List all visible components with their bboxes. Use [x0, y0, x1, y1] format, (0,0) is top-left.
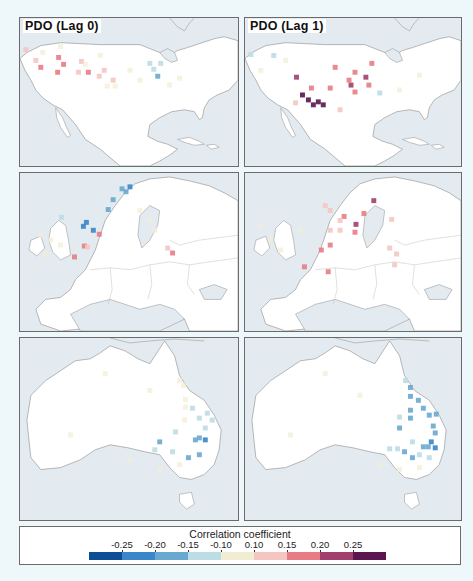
grid-cell	[177, 76, 182, 81]
grid-cell	[294, 75, 299, 80]
grid-cell	[98, 53, 103, 58]
grid-cell	[397, 88, 402, 93]
grid-cell	[177, 462, 182, 467]
colorbar-segment	[89, 552, 122, 560]
grid-cell	[152, 228, 157, 233]
cuba	[178, 137, 205, 145]
grid-cell	[61, 62, 66, 67]
panel-title: PDO (Lag 1)	[248, 19, 326, 33]
grid-cell	[394, 252, 399, 257]
grid-cell	[363, 75, 368, 80]
colorbar-segment	[287, 552, 320, 560]
hudson-bay-coast	[170, 18, 195, 31]
grid-cell	[328, 243, 333, 248]
grid-cell	[416, 398, 421, 403]
grid-cell	[300, 92, 305, 97]
grid-cell	[157, 467, 162, 472]
grid-cell	[23, 47, 28, 52]
grid-cell	[395, 446, 400, 451]
grid-cell	[137, 78, 142, 83]
grid-cell	[151, 67, 156, 72]
colorbar-segment	[353, 552, 386, 560]
grid-cell	[431, 424, 436, 429]
grid-cell	[349, 83, 354, 88]
grid-cell	[33, 58, 38, 63]
grid-cell	[43, 252, 48, 257]
grid-cell	[408, 394, 413, 399]
grid-cell	[397, 426, 402, 431]
grid-cell	[181, 383, 186, 388]
panel-australia-lag1	[244, 337, 462, 521]
grid-cell	[288, 432, 293, 437]
grid-cell	[85, 245, 90, 250]
grid-cell	[258, 68, 263, 73]
grid-cell	[83, 62, 88, 67]
grid-cell	[392, 262, 397, 267]
usa-landmass	[245, 37, 461, 166]
grid-cell	[323, 371, 328, 376]
grid-cell	[377, 91, 382, 96]
grid-cell	[353, 90, 358, 95]
grid-cell	[302, 264, 307, 269]
grid-cell	[258, 223, 263, 228]
grid-cell	[387, 446, 392, 451]
grid-cell	[328, 228, 333, 233]
colorbar-segment	[320, 552, 353, 560]
grid-cell	[59, 215, 64, 220]
grid-cell	[173, 429, 178, 434]
panel-europe-lag0	[19, 172, 239, 332]
grid-cell	[91, 228, 96, 233]
grid-cell	[408, 385, 413, 390]
usa-map-lag1	[245, 18, 461, 166]
panel-usa-lag0: PDO (Lag 0)	[19, 17, 239, 167]
grid-cell	[152, 447, 157, 452]
grid-cell	[408, 408, 413, 413]
new-guinea-coast	[110, 338, 204, 343]
grid-cell	[371, 198, 376, 203]
grid-cell	[197, 416, 202, 421]
grid-cell	[361, 211, 366, 216]
grid-cell	[293, 100, 298, 105]
tasmania	[405, 492, 420, 509]
grid-cell	[197, 452, 202, 457]
grid-cell	[205, 411, 210, 416]
ireland	[254, 236, 270, 256]
grid-cell	[338, 218, 343, 223]
grid-cell	[128, 184, 133, 189]
grid-cell	[203, 437, 208, 442]
grid-cell	[427, 413, 432, 418]
grid-cell	[427, 455, 432, 460]
grid-cell	[321, 102, 326, 107]
usa-landmass	[20, 37, 238, 166]
grid-cell	[353, 222, 358, 227]
grid-cell	[306, 97, 311, 102]
tasmania	[180, 492, 195, 509]
grid-cell	[417, 465, 422, 470]
australia-landmass	[252, 341, 446, 479]
grid-cell	[323, 203, 328, 208]
grid-cell	[97, 74, 102, 79]
europe-map-lag1	[245, 173, 461, 331]
grid-cell	[128, 68, 133, 73]
grid-cell	[157, 439, 162, 444]
grid-cell	[328, 208, 333, 213]
tick-label: -0.10	[210, 539, 232, 550]
tick-label: 0.15	[278, 539, 297, 550]
grid-cell	[333, 65, 338, 70]
grid-cell	[48, 238, 53, 243]
grid-cell	[155, 74, 160, 79]
grid-cell	[40, 50, 45, 55]
panel-europe-lag1	[244, 172, 462, 332]
tick-label: 0.10	[245, 539, 264, 550]
grid-cell	[120, 186, 125, 191]
legend-title: Correlation coefficient	[20, 528, 460, 540]
grid-cell	[402, 449, 407, 454]
colorbar	[89, 552, 386, 560]
grid-cell	[417, 73, 422, 78]
grid-cell	[338, 107, 343, 112]
hudson-bay-coast	[395, 18, 420, 31]
usa-map-lag0	[20, 18, 238, 166]
hispaniola	[431, 144, 444, 149]
colorbar-segment	[254, 552, 287, 560]
grid-cell	[86, 70, 91, 75]
